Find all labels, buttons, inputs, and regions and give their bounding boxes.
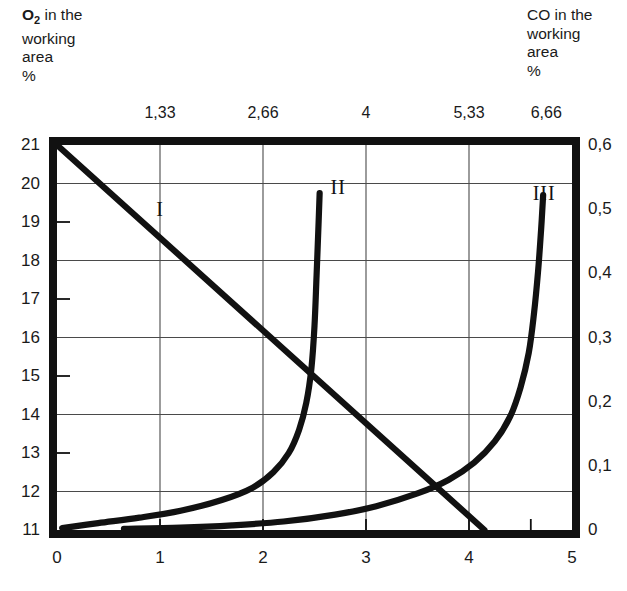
chart-svg	[49, 137, 580, 538]
left-axis-label: 11	[22, 520, 40, 540]
right-axis-label: 0,4	[588, 263, 612, 283]
top-axis-label: 2,66	[247, 104, 278, 122]
curve-label-I: I	[156, 197, 164, 220]
left-axis-label: 17	[21, 289, 40, 309]
o2-formula: O2	[22, 6, 40, 23]
curve-II	[62, 193, 320, 528]
right-axis-label: 0,1	[588, 456, 612, 476]
bottom-axis-label: 2	[258, 548, 267, 568]
curve-label-III: III	[533, 182, 556, 205]
top-axis-label: 5,33	[453, 104, 484, 122]
top-axis-label: 6,66	[531, 104, 562, 122]
top-axis-label: 4	[362, 104, 371, 122]
bottom-axis-label: 0	[52, 548, 61, 568]
left-axis-label: 14	[21, 405, 40, 425]
curve-label-II: II	[331, 175, 346, 198]
chart-plot-area	[49, 137, 580, 538]
top-axis-label: 1,33	[144, 104, 175, 122]
right-axis-title-text: CO in the working area %	[527, 6, 592, 79]
bottom-axis-label: 1	[155, 548, 164, 568]
left-axis-label: 13	[21, 443, 40, 463]
bottom-axis-label: 4	[464, 548, 473, 568]
left-axis-label: 21	[21, 135, 40, 155]
left-axis-label: 18	[21, 251, 40, 271]
left-axis-label: 19	[21, 212, 40, 232]
bottom-axis-label: 3	[361, 548, 370, 568]
bottom-axis-label: 5	[567, 548, 576, 568]
curve-III	[124, 195, 543, 529]
left-axis-title: O2 in the working area %	[22, 6, 82, 85]
right-axis-title: CO in the working area %	[527, 6, 592, 80]
left-axis-label: 12	[21, 482, 40, 502]
left-axis-label: 15	[21, 366, 40, 386]
right-axis-label: 0,3	[588, 328, 612, 348]
left-axis-label: 16	[21, 328, 40, 348]
right-axis-label: 0,2	[588, 392, 612, 412]
right-axis-label: 0,6	[588, 135, 612, 155]
right-axis-label: 0	[588, 520, 597, 540]
right-axis-label: 0,5	[588, 199, 612, 219]
left-axis-label: 20	[21, 174, 40, 194]
